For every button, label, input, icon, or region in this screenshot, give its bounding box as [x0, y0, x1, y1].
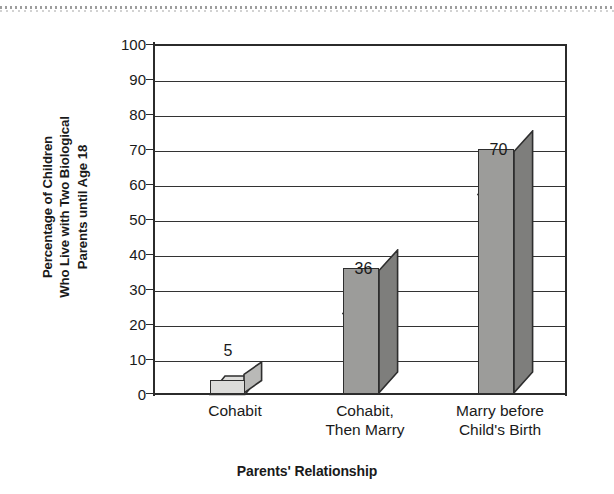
bar-marry-before-childs-birth-front-face: [478, 149, 514, 394]
y-tick-100: 100: [102, 37, 146, 52]
bar-marry-before-childs-birth: 70: [478, 44, 548, 394]
y-tick-40: 40: [102, 247, 146, 262]
y-tick-90: 90: [102, 72, 146, 87]
y-axis-title: Percentage of Children Who Live with Two…: [30, 57, 100, 357]
x-axis-title: Parents' Relationship: [0, 463, 614, 479]
bar-cohabit: 5: [210, 44, 280, 394]
bar-chart-figure: Percentage of Children Who Live with Two…: [0, 0, 614, 494]
bar-cohabit-front-face: [210, 380, 245, 395]
y-tick-80: 80: [102, 107, 146, 122]
y-axis-line: [153, 42, 155, 396]
x-tick-label-cohabit-line-1: Cohabit: [170, 401, 300, 420]
x-tick-label-marry-before-childs-birth: Marry before Child's Birth: [430, 401, 570, 439]
x-tick-label-marry-before-childs-birth-line-2: Child's Birth: [430, 420, 570, 439]
y-tick-10: 10: [102, 352, 146, 367]
x-tick-label-marry-before-childs-birth-line-1: Marry before: [430, 401, 570, 420]
x-tick-label-cohabit: Cohabit: [170, 401, 300, 420]
x-tick-label-cohabit-then-marry-line-1: Cohabit,: [295, 401, 435, 420]
y-tick-0: 0: [102, 387, 146, 402]
y-axis-title-line-2: Who Live with Two Biological: [56, 116, 73, 298]
y-tick-60: 60: [102, 177, 146, 192]
bar-value-cohabit-then-marry: 36: [336, 261, 391, 277]
x-axis-tick-labels: Cohabit Cohabit, Then Marry Marry before…: [155, 401, 565, 457]
y-tick-70: 70: [102, 142, 146, 157]
y-axis-title-line-1: Percentage of Children: [39, 136, 56, 278]
y-tick-20: 20: [102, 317, 146, 332]
bar-cohabit-side-face: [243, 361, 263, 394]
bar-cohabit-then-marry: 36: [343, 44, 413, 394]
x-tick-label-cohabit-then-marry: Cohabit, Then Marry: [295, 401, 435, 439]
y-tick-30: 30: [102, 282, 146, 297]
bar-cohabit-then-marry-front-face: [343, 268, 379, 394]
y-axis-title-line-3: Parents until Age 18: [74, 145, 91, 269]
y-axis-tick-labels: 100 90 80 70 60 50 40 30 20 10 0: [100, 44, 146, 394]
bar-value-marry-before-childs-birth: 70: [471, 142, 526, 158]
y-tick-50: 50: [102, 212, 146, 227]
bar-value-cohabit: 5: [202, 343, 254, 359]
x-tick-label-cohabit-then-marry-line-2: Then Marry: [295, 420, 435, 439]
bar-marry-before-childs-birth-side-face: [513, 130, 534, 394]
